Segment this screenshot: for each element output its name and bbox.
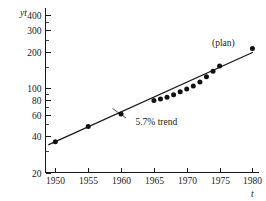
data-point-observed — [53, 139, 58, 144]
data-point-observed — [191, 84, 196, 89]
y-axis-label: yt — [19, 8, 27, 18]
x-tick-label: 1980 — [243, 176, 262, 186]
data-point-observed — [211, 69, 216, 74]
data-point-observed — [86, 124, 91, 129]
data-point-observed — [151, 98, 156, 103]
data-point-observed — [184, 87, 189, 92]
log-scale-time-series-chart: 20406080100200300400 1950195519601965197… — [0, 0, 266, 201]
x-tick-label: 1960 — [112, 176, 131, 186]
data-point-observed — [165, 95, 170, 100]
y-tick-label: 400 — [27, 11, 42, 21]
y-tick-label: 300 — [27, 26, 42, 36]
axis-frame — [46, 8, 260, 173]
data-point-observed — [171, 92, 176, 97]
x-tick-label: 1975 — [211, 176, 230, 186]
x-axis-ticks — [56, 168, 253, 173]
y-tick-label: 60 — [32, 111, 42, 121]
data-point-observed — [158, 97, 163, 102]
y-tick-label: 100 — [27, 84, 42, 94]
y-axis-tick-labels: 20406080100200300400 — [27, 11, 42, 179]
trend-annotation-label: 5.7% trend — [135, 117, 177, 127]
data-point-observed — [217, 64, 222, 69]
data-point-observed — [204, 74, 209, 79]
y-tick-label: 200 — [27, 48, 42, 58]
x-tick-label: 1955 — [79, 176, 98, 186]
x-tick-label: 1970 — [178, 176, 197, 186]
plan-annotation-label: (plan) — [212, 38, 235, 49]
y-tick-label: 40 — [32, 132, 42, 142]
x-tick-label: 1965 — [145, 176, 164, 186]
data-point-plan — [250, 46, 255, 51]
data-point-observed — [119, 111, 124, 116]
data-point-observed — [178, 89, 183, 94]
x-axis-tick-labels: 1950195519601965197019751980 — [46, 176, 262, 186]
x-axis-label: t — [251, 189, 254, 199]
x-tick-label: 1950 — [46, 176, 65, 186]
y-tick-label: 80 — [32, 96, 42, 106]
y-tick-label: 20 — [32, 169, 42, 179]
figure-container: 20406080100200300400 1950195519601965197… — [0, 0, 266, 201]
data-point-observed — [197, 80, 202, 85]
